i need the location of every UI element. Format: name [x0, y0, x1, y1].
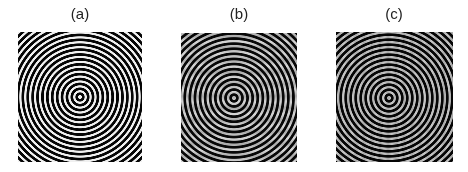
artifact-overlay — [336, 32, 453, 162]
panel-a-label: (a) — [60, 5, 100, 22]
panel-c-ring-image — [336, 32, 453, 162]
panel-b-label: (b) — [219, 5, 259, 22]
concentric-rings-pattern — [18, 32, 142, 162]
panel-c-label: (c) — [374, 5, 414, 22]
panel-b-ring-image — [181, 33, 297, 162]
artifact-overlay — [181, 33, 297, 162]
panel-a-ring-image — [18, 32, 142, 162]
